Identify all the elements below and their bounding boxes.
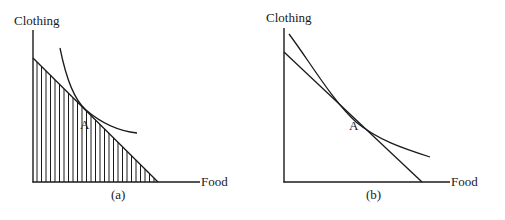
panel-a-point-label: A bbox=[80, 117, 90, 132]
panel-b-caption: (b) bbox=[366, 187, 381, 202]
panel-b-budget-line bbox=[284, 52, 422, 182]
panel-a-indifference-curve bbox=[60, 48, 137, 133]
panel-a-budget-set-hatching bbox=[37, 50, 154, 182]
panel-a: Clothing bbox=[14, 13, 228, 202]
panel-a-y-axis-label: Clothing bbox=[14, 13, 60, 28]
panel-b-y-axis-label: Clothing bbox=[266, 10, 312, 25]
panel-b-point-label: A bbox=[349, 118, 359, 133]
diagram-canvas: Clothing bbox=[0, 0, 505, 220]
consumer-choice-figure: Clothing bbox=[0, 0, 505, 220]
panel-b-indifference-curve bbox=[289, 34, 430, 157]
panel-a-caption: (a) bbox=[111, 187, 125, 202]
panel-b: Clothing A Food (b) bbox=[266, 10, 478, 202]
panel-b-x-axis-label: Food bbox=[451, 174, 478, 189]
panel-a-x-axis-label: Food bbox=[201, 174, 228, 189]
